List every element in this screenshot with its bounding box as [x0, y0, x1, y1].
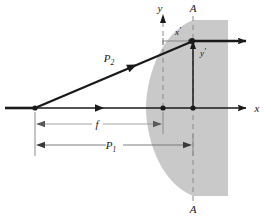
y-axis-label: y: [157, 2, 163, 14]
figure-container: y x A A x' y' P2 f P1: [0, 0, 271, 218]
plane-label-top: A: [189, 2, 197, 14]
focal-length-dimension: [35, 112, 163, 134]
focal-length-label: f: [95, 118, 100, 130]
principal-point: [190, 105, 195, 110]
distance-p1-label: P1: [105, 139, 116, 154]
source-point: [32, 105, 37, 110]
ray-intersection-point: [189, 38, 195, 44]
ray-p2-label: P2: [103, 52, 115, 67]
ray-diagram-svg: y x A A x' y' P2 f P1: [0, 0, 271, 218]
x-axis-label: x: [254, 102, 260, 114]
figure-caption: [0, 206, 271, 218]
focal-point: [160, 105, 165, 110]
